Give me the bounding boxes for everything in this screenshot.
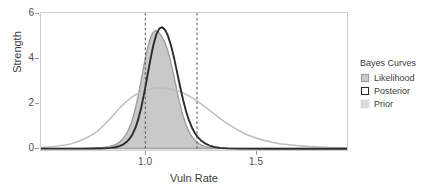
y-tick-mark-2: [35, 103, 39, 104]
x-tick-mark-1-0: [145, 151, 146, 155]
x-tick-label-1-0: 1.0: [125, 156, 165, 167]
legend-label-posterior: Posterior: [374, 86, 410, 96]
bayes-curves-chart: Strength 6 4 2 0 1.0 1.5 Vuln Rate Ba: [0, 0, 437, 193]
legend-item-likelihood[interactable]: Likelihood: [360, 72, 437, 84]
legend-label-prior: Prior: [374, 99, 393, 109]
legend-label-likelihood: Likelihood: [374, 73, 415, 83]
y-tick-label-0: 0: [8, 143, 34, 153]
y-tick-mark-0: [35, 148, 39, 149]
plot-panel: [40, 12, 348, 151]
y-axis-tick-labels: 6 4 2 0: [4, 0, 34, 193]
x-axis-title: Vuln Rate: [40, 172, 348, 184]
legend-item-prior[interactable]: Prior: [360, 98, 437, 110]
legend-key-prior-icon: [360, 99, 370, 109]
legend-title: Bayes Curves: [360, 58, 437, 68]
y-tick-label-2: 2: [8, 98, 34, 108]
y-tick-label-6: 6: [8, 8, 34, 18]
y-tick-mark-4: [35, 58, 39, 59]
y-tick-label-4: 4: [8, 53, 34, 63]
x-tick-label-1-5: 1.5: [236, 156, 276, 167]
legend-key-posterior-icon: [360, 86, 370, 96]
legend-key-likelihood-icon: [360, 73, 370, 83]
plot-canvas: [41, 13, 347, 150]
legend-item-posterior[interactable]: Posterior: [360, 85, 437, 97]
x-tick-mark-1-5: [256, 151, 257, 155]
legend: Bayes Curves Likelihood Posterior Prior: [360, 58, 437, 111]
y-tick-mark-6: [35, 13, 39, 14]
posterior-curve: [41, 27, 347, 149]
